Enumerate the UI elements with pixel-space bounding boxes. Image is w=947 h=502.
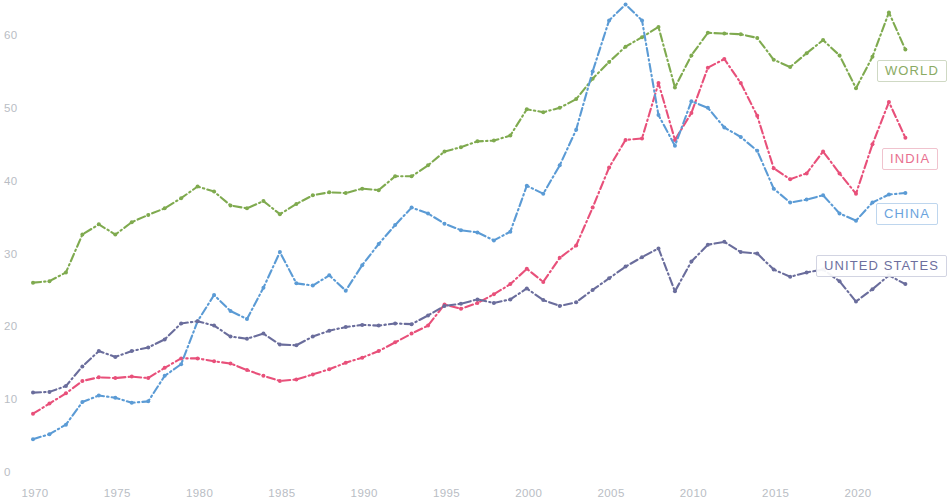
series-line <box>33 242 905 393</box>
series-world <box>31 10 907 284</box>
series-united-states <box>31 240 907 395</box>
x-axis-tick-label: 1970 <box>21 487 48 499</box>
y-axis-tick-label: 20 <box>4 320 18 332</box>
series-point-markers <box>31 240 907 395</box>
x-axis-tick-label: 1975 <box>104 487 131 499</box>
x-axis-tick-label: 1980 <box>186 487 213 499</box>
x-axis-tick-label: 1990 <box>351 487 378 499</box>
series-china <box>31 2 907 441</box>
x-axis-tick-label: 2000 <box>515 487 542 499</box>
series-line <box>33 59 905 414</box>
series-line <box>33 4 905 439</box>
x-axis-tick-label: 2020 <box>844 487 871 499</box>
legend-label-united-states[interactable]: UNITED STATES <box>816 255 947 277</box>
x-axis-tick-label: 2015 <box>762 487 789 499</box>
y-axis-tick-label: 30 <box>4 248 18 260</box>
y-axis-tick-label: 0 <box>4 466 11 478</box>
y-axis-tick-label: 50 <box>4 102 18 114</box>
x-axis-tick-label: 2010 <box>680 487 707 499</box>
y-axis-tick-label: 40 <box>4 175 18 187</box>
series-point-markers <box>31 57 907 416</box>
y-axis-tick-label: 60 <box>4 29 18 41</box>
series-point-markers <box>31 10 907 284</box>
series-india <box>31 57 907 416</box>
series-point-markers <box>31 2 907 441</box>
legend-label-world[interactable]: WORLD <box>877 60 947 82</box>
legend-label-china[interactable]: CHINA <box>876 203 938 225</box>
y-axis-tick-label: 10 <box>4 393 18 405</box>
legend-label-india[interactable]: INDIA <box>882 148 938 170</box>
x-axis-tick-label: 1985 <box>268 487 295 499</box>
x-axis-tick-label: 2005 <box>598 487 625 499</box>
series-line <box>33 12 905 282</box>
x-axis-tick-label: 1995 <box>433 487 460 499</box>
